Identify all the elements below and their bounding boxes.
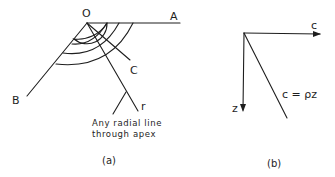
label-relation: c = ρz — [282, 88, 317, 101]
line-oc — [87, 23, 130, 60]
label-o: O — [82, 7, 91, 20]
arc-2-curve — [63, 23, 119, 54]
label-r: r — [141, 100, 146, 113]
caption-a: (a) — [102, 155, 116, 166]
label-z-axis: z — [232, 102, 238, 115]
line-c-rho-z — [244, 33, 287, 118]
figure-a: O A B C r Any radial line through apex (… — [12, 7, 180, 166]
diagram-canvas: O A B C r Any radial line through apex (… — [0, 0, 335, 177]
z-axis-arrow-icon — [240, 104, 246, 112]
figure-b: c z c = ρz (b) — [232, 19, 321, 169]
line-ob — [27, 23, 87, 96]
annotation-line-2: through apex — [92, 129, 156, 139]
annotation-line-1: Any radial line — [92, 118, 162, 128]
label-c-axis: c — [311, 19, 317, 32]
caption-b: (b) — [267, 158, 281, 169]
label-b: B — [12, 94, 20, 107]
c-axis — [244, 33, 320, 34]
annotation-leader — [113, 92, 126, 114]
label-c: C — [130, 64, 138, 77]
label-a: A — [170, 10, 178, 23]
z-axis — [243, 33, 244, 110]
